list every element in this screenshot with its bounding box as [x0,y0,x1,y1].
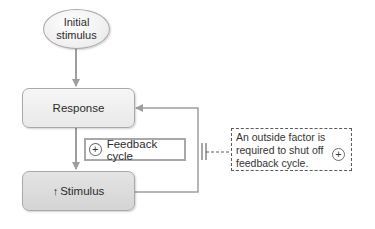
stimulus-node: ↑ Stimulus [22,171,135,211]
response-label: Response [53,102,105,114]
feedback-cycle-label: + Feedback cycle [84,138,186,161]
feedback-cycle-text: Feedback cycle [107,138,184,162]
initial-stimulus-line2: stimulus [56,29,96,42]
initial-stimulus-node: Initial stimulus [43,9,110,49]
note-line: required to shut off [236,144,347,157]
stimulus-label: Stimulus [60,185,104,197]
plus-circle-icon: + [332,148,345,161]
initial-stimulus-line1: Initial [56,16,96,29]
note-line: An outside factor is [236,131,347,144]
plus-circle-icon: + [89,143,102,156]
up-arrow-icon: ↑ [53,185,59,197]
note-line: feedback cycle. [236,157,347,170]
outside-factor-note: An outside factor is required to shut of… [231,128,352,171]
response-node: Response [22,88,135,128]
